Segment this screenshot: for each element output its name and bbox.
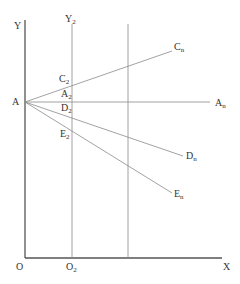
- ray-c: [25, 51, 172, 102]
- y-axis-label: Y: [14, 20, 21, 31]
- cn-label: Cn: [174, 41, 185, 54]
- an-label: An: [215, 97, 226, 110]
- ray-d: [25, 102, 183, 156]
- en-label: En: [174, 188, 184, 201]
- x-axis-label: X: [223, 261, 231, 272]
- origin-label: O: [16, 261, 23, 272]
- d2-label: D2: [61, 102, 72, 115]
- dn-label: Dn: [186, 150, 197, 163]
- c2-label: C2: [59, 73, 70, 86]
- y2-label: Y2: [65, 13, 76, 26]
- e2-label: E2: [60, 128, 70, 141]
- o2-label: O2: [66, 261, 77, 274]
- ray-e: [25, 102, 172, 193]
- a2-label: A2: [61, 88, 72, 101]
- point-a-label: A: [12, 96, 20, 107]
- diagram: Y O X Y2 O2 A C2 A2 D2 E2 Cn An Dn En: [0, 0, 240, 284]
